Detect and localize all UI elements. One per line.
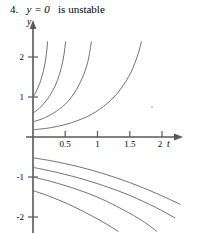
solution-curve <box>33 42 91 122</box>
y-axis-label: y <box>26 17 32 27</box>
solution-curve <box>33 42 141 130</box>
y-tick-label-2: -1 <box>17 172 25 182</box>
figure-panel: 4. y = 0 is unstable y t 0.5 1 1.5 2 <box>0 0 205 233</box>
solution-curve <box>33 191 118 232</box>
solution-curve <box>33 42 66 113</box>
y-axis <box>30 20 37 233</box>
solution-curve <box>33 42 48 97</box>
x-tick-label-2: 1.5 <box>124 139 136 149</box>
y-tick-label-0: 2 <box>20 52 25 62</box>
x-axis-label: t <box>167 139 170 149</box>
solution-curve <box>33 177 157 231</box>
solution-curve <box>33 158 180 204</box>
y-tick-label-3: -2 <box>17 212 25 222</box>
scan-artifact-speck <box>151 106 153 108</box>
x-tick-label-1: 1 <box>95 139 100 149</box>
solution-curve-plot: y t 0.5 1 1.5 2 2 1 -1 -2 <box>0 14 205 233</box>
y-tick-label-1: 1 <box>20 92 25 102</box>
x-axis-arrow <box>174 134 183 141</box>
x-tick-label-3: 2 <box>158 139 163 149</box>
x-tick-group: 0.5 1 1.5 2 <box>60 131 163 149</box>
x-tick-label-0: 0.5 <box>60 139 72 149</box>
